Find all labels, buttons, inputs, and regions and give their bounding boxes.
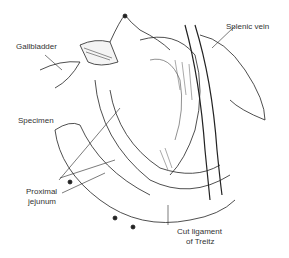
label-proximal-jejunum-line1: Proximal	[26, 187, 57, 196]
label-splenic-vein: Splenic vein	[226, 22, 269, 31]
label-cut-ligament-line2: of Treitz	[186, 237, 214, 246]
label-specimen: Specimen	[18, 116, 54, 125]
label-cut-ligament-line1: Cut ligament	[177, 227, 222, 236]
anatomy-drawing	[0, 0, 289, 258]
illustration-canvas: Gallbladder Splenic vein Specimen Proxim…	[0, 0, 289, 258]
label-gallbladder: Gallbladder	[16, 42, 57, 51]
label-proximal-jejunum-line2: jejunum	[28, 197, 56, 206]
